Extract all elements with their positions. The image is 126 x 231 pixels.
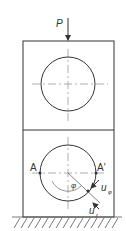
radial-displacement-label: u (89, 205, 95, 216)
point-a-prime-label: A' (97, 162, 106, 173)
bottom-hole (32, 137, 104, 211)
diagram-canvas: P A A' φ u φ u r (0, 0, 126, 231)
angle-label: φ (71, 181, 76, 190)
tangential-displacement-label: u (101, 182, 107, 193)
point-a-marker (39, 172, 42, 175)
angle-arc (52, 181, 81, 191)
point-a-label: A (30, 162, 37, 173)
ground-support (12, 217, 122, 228)
load-label: P (56, 18, 63, 29)
top-hole (32, 49, 108, 124)
tangential-displacement-subscript: φ (108, 189, 112, 195)
